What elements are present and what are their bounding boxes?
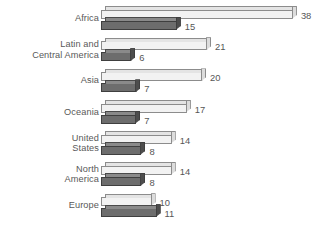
bar-top-face — [101, 68, 202, 73]
bar-light — [101, 6, 293, 15]
bar-end-cap — [186, 100, 191, 113]
bar-top-face — [101, 17, 177, 22]
value-label: 7 — [144, 84, 149, 94]
bar-top-surface — [105, 205, 157, 209]
bar-top-face — [101, 204, 157, 209]
bar-dark — [101, 173, 141, 182]
bar-top-face — [101, 79, 136, 84]
bar-top-surface — [105, 6, 293, 10]
bar-top-surface — [105, 173, 141, 177]
bar-light — [101, 131, 172, 140]
bar-top-face — [101, 131, 172, 136]
category-label: Asia — [0, 75, 99, 85]
bar-end-cap — [292, 6, 297, 19]
bar-end-cap — [140, 142, 145, 155]
bar-dark — [101, 79, 136, 88]
value-label: 38 — [301, 11, 311, 21]
chart-row: United States148 — [0, 131, 318, 162]
chart-row: Oceania177 — [0, 100, 318, 131]
bar-light — [101, 193, 152, 202]
bar-end-cap — [156, 204, 161, 217]
bar-top-face — [101, 173, 141, 178]
bar-top-surface — [105, 69, 202, 73]
bar-top-face — [101, 37, 207, 42]
value-label: 6 — [139, 53, 144, 63]
bar-dark — [101, 17, 177, 26]
bar-front-face — [101, 208, 157, 217]
bar-dark — [101, 142, 141, 151]
chart-row: Europe1011 — [0, 193, 318, 224]
category-label: Europe — [0, 200, 99, 210]
value-label: 17 — [195, 105, 205, 115]
bar-top-face — [101, 193, 152, 198]
bar-top-surface — [105, 80, 136, 84]
bar-end-cap — [135, 111, 140, 124]
bar-chart: Africa3815Latin and Central America216As… — [0, 0, 318, 245]
bar-top-face — [101, 48, 131, 53]
value-label: 11 — [165, 209, 175, 219]
bar-end-cap — [171, 162, 176, 175]
bar-light — [101, 68, 202, 77]
value-label: 10 — [160, 198, 170, 208]
bar-dark — [101, 48, 131, 57]
bar-end-cap — [171, 131, 176, 144]
bar-top-surface — [105, 194, 152, 198]
bar-top-surface — [105, 142, 141, 146]
bar-top-surface — [105, 162, 172, 166]
value-label: 15 — [185, 22, 195, 32]
bar-front-face — [101, 115, 136, 124]
bar-top-face — [101, 111, 136, 116]
bar-top-surface — [105, 38, 207, 42]
bar-top-face — [101, 142, 141, 147]
bar-dark — [101, 111, 136, 120]
bar-top-face — [101, 6, 293, 11]
chart-row: North America148 — [0, 162, 318, 193]
bar-front-face — [101, 177, 141, 186]
bar-dark — [101, 204, 157, 213]
bar-top-surface — [105, 100, 187, 104]
chart-row: Asia207 — [0, 68, 318, 99]
bar-light — [101, 37, 207, 46]
category-label: United States — [0, 133, 99, 154]
bar-end-cap — [206, 37, 211, 50]
bar-top-surface — [105, 17, 177, 21]
bar-light — [101, 100, 187, 109]
value-label: 14 — [180, 136, 190, 146]
value-label: 8 — [149, 147, 154, 157]
category-label: North America — [0, 164, 99, 185]
bar-top-surface — [105, 111, 136, 115]
chart-row: Africa3815 — [0, 6, 318, 37]
bar-top-face — [101, 162, 172, 167]
bar-top-face — [101, 100, 187, 105]
bar-end-cap — [176, 17, 181, 30]
value-label: 7 — [144, 116, 149, 126]
bar-end-cap — [140, 173, 145, 186]
value-label: 8 — [149, 178, 154, 188]
bar-front-face — [101, 52, 131, 61]
bar-end-cap — [201, 68, 206, 81]
category-label: Latin and Central America — [0, 39, 99, 60]
bar-end-cap — [135, 79, 140, 92]
category-label: Africa — [0, 13, 99, 23]
bar-top-surface — [105, 49, 131, 53]
bar-front-face — [101, 21, 177, 30]
bar-light — [101, 162, 172, 171]
chart-row: Latin and Central America216 — [0, 37, 318, 68]
bar-top-surface — [105, 131, 172, 135]
bar-front-face — [101, 83, 136, 92]
value-label: 20 — [210, 73, 220, 83]
bar-end-cap — [130, 48, 135, 61]
bar-front-face — [101, 146, 141, 155]
category-label: Oceania — [0, 107, 99, 117]
value-label: 21 — [215, 42, 225, 52]
value-label: 14 — [180, 167, 190, 177]
